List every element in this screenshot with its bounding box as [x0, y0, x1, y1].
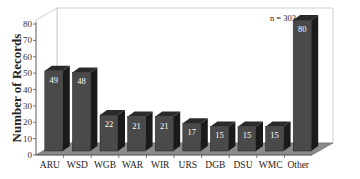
- x-tick-label: WMC: [259, 160, 283, 170]
- bar-value-label: 80: [298, 24, 307, 34]
- bar-value-label: 17: [188, 127, 197, 137]
- bar-side: [284, 121, 291, 151]
- x-tick-label: WSD: [67, 160, 88, 170]
- bar-value-label: 48: [77, 76, 86, 86]
- bar-chart: Number of Records 0102030405060708049ARU…: [0, 0, 360, 179]
- bar-value-label: 49: [50, 75, 59, 85]
- bar-side: [63, 66, 70, 151]
- bar-value-label: 21: [160, 121, 169, 131]
- bar-side: [146, 112, 153, 151]
- bar-value-label: 15: [243, 130, 252, 140]
- bar-side: [311, 15, 318, 151]
- chart-canvas: 0102030405060708049ARU48WSD22WGB21WAR21W…: [0, 0, 360, 179]
- x-tick-label: WAR: [122, 160, 144, 170]
- y-tick-label: 80: [23, 19, 33, 29]
- x-tick-label: WGB: [94, 160, 116, 170]
- bar-side: [228, 121, 235, 151]
- x-tick-label: DSU: [233, 160, 252, 170]
- sample-size-annotation: n = 303: [270, 13, 296, 23]
- bar-side: [90, 67, 97, 151]
- bar-side: [256, 121, 263, 151]
- y-tick-label: 0: [28, 150, 33, 160]
- x-tick-label: WIR: [151, 160, 170, 170]
- bar-value-label: 15: [215, 130, 224, 140]
- bar-other: [293, 20, 311, 151]
- x-tick-label: ARU: [40, 160, 60, 170]
- bar-side: [118, 110, 125, 151]
- bar-value-label: 15: [270, 130, 279, 140]
- bar-side: [173, 112, 180, 151]
- y-axis-label: Number of Records: [9, 33, 25, 143]
- bar-value-label: 21: [132, 121, 141, 131]
- x-tick-label: DGB: [205, 160, 225, 170]
- x-tick-label: Other: [287, 160, 309, 170]
- bar-value-label: 22: [105, 119, 114, 129]
- bar-side: [201, 118, 208, 151]
- x-tick-label: URS: [179, 160, 197, 170]
